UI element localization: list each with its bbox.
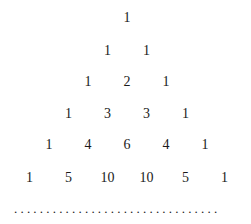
triangle-row: 121 <box>0 72 251 92</box>
triangle-cell: 1 <box>93 41 123 61</box>
triangle-row: 1 <box>0 8 251 28</box>
triangle-cell: 1 <box>34 135 64 155</box>
triangle-cell: 10 <box>93 168 123 188</box>
triangle-cell: 1 <box>190 135 220 155</box>
triangle-cell: 10 <box>132 168 162 188</box>
continuation-dots: ................................ <box>14 202 244 216</box>
triangle-cell: 5 <box>54 168 84 188</box>
triangle-cell: 1 <box>151 72 181 92</box>
triangle-cell: 4 <box>151 135 181 155</box>
triangle-cell: 1 <box>54 104 84 124</box>
triangle-cell: 5 <box>171 168 201 188</box>
triangle-cell: 2 <box>112 72 142 92</box>
triangle-cell: 1 <box>132 41 162 61</box>
triangle-cell: 1 <box>171 104 201 124</box>
triangle-cell: 6 <box>112 135 142 155</box>
triangle-cell: 3 <box>93 104 123 124</box>
triangle-cell: 4 <box>73 135 103 155</box>
triangle-cell: 1 <box>15 168 45 188</box>
triangle-row: 14641 <box>0 135 251 155</box>
triangle-cell: 1 <box>210 168 240 188</box>
triangle-cell: 1 <box>112 8 142 28</box>
triangle-row: 1331 <box>0 104 251 124</box>
triangle-row: 11 <box>0 41 251 61</box>
triangle-row: 15101051 <box>0 168 251 188</box>
triangle-cell: 3 <box>132 104 162 124</box>
triangle-cell: 1 <box>73 72 103 92</box>
